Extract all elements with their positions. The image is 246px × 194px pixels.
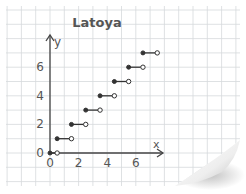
open-endpoint — [69, 137, 73, 141]
open-endpoint — [84, 122, 88, 126]
closed-endpoint — [141, 51, 145, 55]
y-axis-label: y — [54, 35, 61, 49]
open-endpoint — [126, 79, 130, 83]
closed-endpoint — [69, 122, 73, 126]
open-endpoint — [112, 94, 116, 98]
closed-endpoint — [48, 151, 52, 155]
x-tick-label: 4 — [103, 156, 111, 170]
x-tick-label: 2 — [75, 156, 83, 170]
x-tick-label: 0 — [46, 156, 54, 170]
open-endpoint — [155, 51, 159, 55]
y-tick-label: 2 — [36, 117, 44, 131]
closed-endpoint — [84, 108, 88, 112]
closed-endpoint — [127, 65, 131, 69]
y-tick-label: 4 — [36, 89, 44, 103]
closed-endpoint — [55, 137, 59, 141]
graph-paper: 02460246 Latoya y x — [0, 0, 246, 194]
x-axis-label: x — [153, 138, 160, 151]
chart-title: Latoya — [72, 15, 121, 30]
open-endpoint — [98, 108, 102, 112]
y-tick-label: 0 — [36, 146, 44, 160]
closed-endpoint — [112, 80, 116, 84]
y-tick-label: 6 — [36, 60, 44, 74]
open-endpoint — [141, 65, 145, 69]
x-tick-label: 6 — [132, 156, 140, 170]
open-endpoint — [55, 151, 59, 155]
closed-endpoint — [98, 94, 102, 98]
